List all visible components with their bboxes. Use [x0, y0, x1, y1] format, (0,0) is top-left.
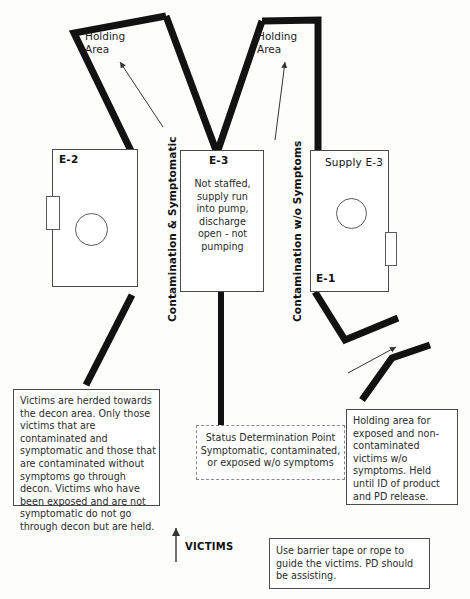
apparatus-supply-e3-pump-icon [336, 198, 367, 229]
apparatus-e3-label: E-3 [209, 154, 228, 166]
note-victims-herded-text: Victims are herded towards the decon are… [20, 395, 156, 534]
arrow-to-left-holding [120, 62, 163, 127]
holding-area-left-label: Holding Area [85, 30, 125, 56]
barrier-chevron-lower-right [362, 345, 430, 400]
note-holding-area-detail-text: Holding area for exposed and non-contami… [353, 415, 455, 503]
note-barrier-tape-text: Use barrier tape or rope to guide the vi… [276, 545, 427, 583]
apparatus-e2-pump-icon [75, 213, 108, 246]
apparatus-e2-label: E-2 [59, 153, 78, 165]
victims-inflow-label: VICTIMS [185, 541, 234, 552]
arrow-to-right-holding [275, 62, 285, 140]
apparatus-e3-note: Not staffed, supply run into pump, disch… [186, 178, 259, 254]
corridor-label-contaminated-no-symptoms: Contamination w/o Symptoms [291, 141, 303, 322]
barrier-chevron-upper-right [315, 292, 398, 340]
apparatus-supply-e3-label: Supply E-3 [325, 156, 383, 168]
apparatus-e1-label: E-1 [316, 272, 335, 284]
barrier-center-vee [166, 16, 262, 153]
apparatus-e2-discharge-port-icon [46, 196, 60, 230]
note-status-determination-point-text: Status Determination Point Symptomatic, … [200, 432, 341, 470]
barrier-lower-left-diagonal [86, 295, 132, 385]
diagram-canvas: Holding Area Holding Area Contamination … [0, 0, 470, 599]
holding-area-right-label: Holding Area [257, 30, 297, 56]
corridor-label-contaminated-symptomatic: Contamination & Symptomatic [166, 136, 178, 322]
apparatus-supply-e3-intake-port-icon [385, 232, 397, 266]
